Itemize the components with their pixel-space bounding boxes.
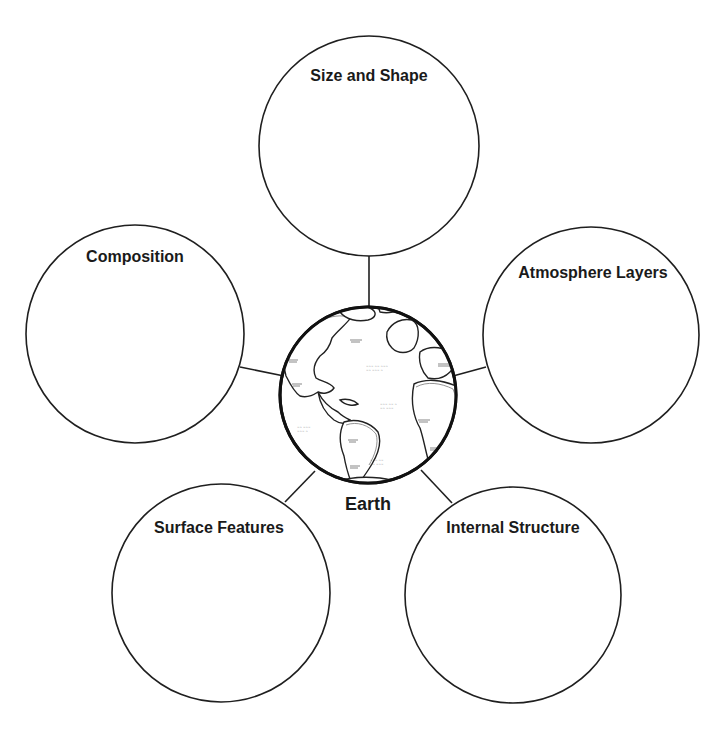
connector-internal-structure [421, 470, 452, 503]
node-surface-features[interactable]: Surface Features [112, 484, 330, 702]
svg-text:~~~ ~: ~~~ ~ [297, 429, 308, 433]
bubble-surface-features[interactable] [112, 484, 330, 702]
connector-atmosphere-layers [453, 367, 486, 376]
node-label-composition: Composition [86, 248, 184, 265]
node-label-atmosphere-layers: Atmosphere Layers [518, 264, 667, 281]
node-internal-structure[interactable]: Internal Structure [405, 487, 621, 703]
center-label-earth: Earth [345, 494, 391, 514]
bubble-atmosphere-layers[interactable] [483, 227, 699, 443]
node-label-size-and-shape: Size and Shape [310, 67, 427, 84]
connector-composition [240, 367, 284, 376]
node-composition[interactable]: Composition [26, 225, 244, 443]
node-atmosphere-layers[interactable]: Atmosphere Layers [483, 227, 699, 443]
globe-icon: ~~~ ~~ ~~~ ~~ ~~~ ~ ~~~ ~~ ~ ~~ ~~~ ~~ ~… [280, 303, 460, 492]
svg-text:~~ ~~~ ~: ~~ ~~~ ~ [366, 368, 383, 372]
node-size-and-shape[interactable]: Size and Shape [259, 36, 479, 256]
node-label-surface-features: Surface Features [154, 519, 284, 536]
earth-concept-web: Size and Shape Composition Atmosphere La… [0, 0, 725, 744]
svg-text:~~ ~~~: ~~ ~~~ [370, 462, 384, 466]
svg-text:~~ ~~~: ~~ ~~~ [380, 406, 394, 410]
connector-surface-features [285, 471, 315, 502]
node-label-internal-structure: Internal Structure [446, 519, 579, 536]
